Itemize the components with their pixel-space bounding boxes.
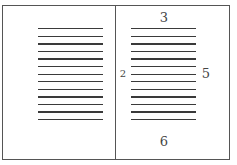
right-page-text-block: [131, 28, 196, 120]
spine-divider: [115, 5, 116, 160]
text-line: [38, 51, 103, 52]
text-line: [38, 89, 103, 90]
text-line: [131, 89, 196, 90]
text-line: [131, 104, 196, 105]
outer-margin-label: 5: [202, 67, 210, 80]
text-line: [38, 111, 103, 112]
text-line: [131, 36, 196, 37]
text-line: [38, 43, 103, 44]
text-line: [38, 96, 103, 97]
text-line: [131, 66, 196, 67]
text-line: [38, 119, 103, 120]
text-line: [38, 58, 103, 59]
text-line: [131, 111, 196, 112]
text-line: [131, 96, 196, 97]
text-line: [131, 43, 196, 44]
text-line: [38, 28, 103, 29]
bottom-margin-label: 6: [160, 135, 168, 148]
text-line: [131, 119, 196, 120]
inner-margin-label: 2: [120, 69, 126, 79]
text-line: [38, 36, 103, 37]
text-line: [38, 74, 103, 75]
text-line: [131, 81, 196, 82]
left-page-text-block: [38, 28, 103, 120]
text-line: [131, 28, 196, 29]
top-margin-label: 3: [160, 11, 168, 24]
text-line: [38, 104, 103, 105]
text-line: [38, 66, 103, 67]
text-line: [131, 51, 196, 52]
text-line: [38, 81, 103, 82]
text-line: [131, 58, 196, 59]
text-line: [131, 74, 196, 75]
